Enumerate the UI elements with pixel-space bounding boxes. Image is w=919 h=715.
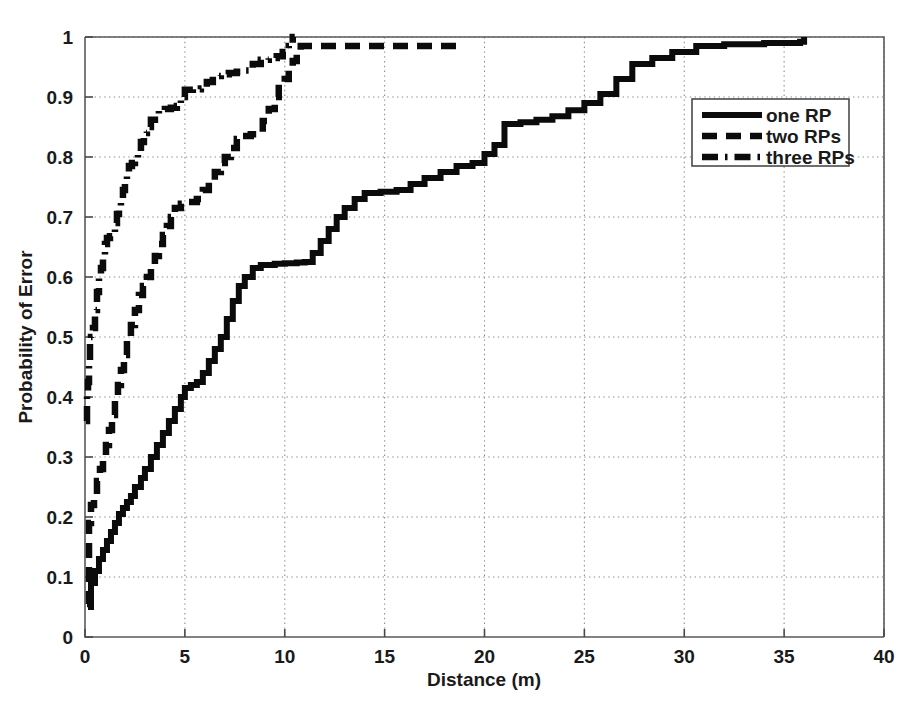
y-tick-label: 0.7 bbox=[47, 207, 73, 228]
y-tick-label: 0.8 bbox=[47, 147, 73, 168]
x-tick-label: 30 bbox=[674, 646, 695, 667]
y-tick-label: 0.2 bbox=[47, 507, 73, 528]
x-tick-label: 0 bbox=[80, 646, 91, 667]
y-tick-label: 0 bbox=[62, 627, 73, 648]
x-tick-label: 20 bbox=[474, 646, 495, 667]
y-tick-label: 0.3 bbox=[47, 447, 73, 468]
y-tick-label: 0.9 bbox=[47, 87, 73, 108]
legend-label-one-rp: one RP bbox=[766, 105, 832, 126]
y-tick-label: 0.4 bbox=[47, 387, 74, 408]
x-tick-label: 40 bbox=[873, 646, 894, 667]
chart-plot: 0510152025303540 00.10.20.30.40.50.60.70… bbox=[0, 0, 919, 715]
x-tick-label: 15 bbox=[374, 646, 396, 667]
x-tick-label: 10 bbox=[274, 646, 295, 667]
y-tick-label: 1 bbox=[62, 27, 73, 48]
legend-label-two-rps: two RPs bbox=[766, 126, 841, 147]
x-axis-title: Distance (m) bbox=[427, 669, 541, 690]
x-tick-label: 35 bbox=[774, 646, 796, 667]
y-tick-label: 0.5 bbox=[47, 327, 74, 348]
chart-legend[interactable]: one RPtwo RPsthree RPs bbox=[692, 99, 855, 168]
figure-canvas: 0510152025303540 00.10.20.30.40.50.60.70… bbox=[0, 0, 919, 715]
y-tick-label: 0.1 bbox=[47, 567, 74, 588]
y-axis-title: Probability of Error bbox=[15, 250, 36, 424]
legend-label-three-rps: three RPs bbox=[766, 147, 855, 168]
x-tick-label: 25 bbox=[574, 646, 596, 667]
y-tick-label: 0.6 bbox=[47, 267, 73, 288]
x-tick-label: 5 bbox=[180, 646, 191, 667]
